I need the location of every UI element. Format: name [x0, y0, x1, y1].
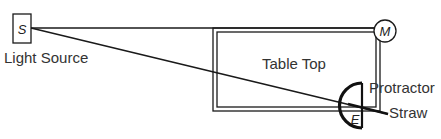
mirror-circle: M: [374, 20, 396, 42]
protractor-label: Protractor: [369, 79, 435, 96]
light-reflection-diagram: S M E Light Source Table Top Protractor …: [0, 0, 441, 139]
beam-source-to-straw: [31, 28, 388, 114]
source-letter: S: [18, 22, 27, 37]
light-source-label: Light Source: [4, 49, 88, 66]
light-source-box: S: [13, 14, 31, 43]
eye-letter: E: [351, 112, 360, 127]
straw-label: Straw: [389, 104, 428, 121]
mirror-letter: M: [380, 24, 391, 39]
table-top-label: Table Top: [262, 55, 326, 72]
